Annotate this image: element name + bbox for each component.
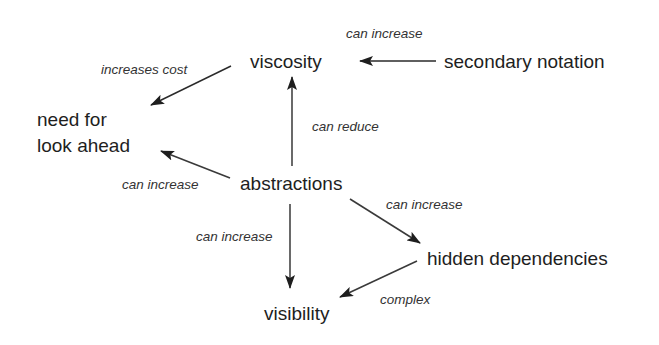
edge-abstractions-to-lookahead <box>161 151 230 178</box>
node-need-for-look-ahead-line1: need for <box>37 109 107 130</box>
node-abstractions: abstractions <box>240 173 342 194</box>
label-abstractions-to-viscosity: can reduce <box>312 119 379 134</box>
node-need-for-look-ahead-line2: look ahead <box>37 135 130 156</box>
label-secondary-to-viscosity: can increase <box>346 26 423 41</box>
label-viscosity-to-lookahead: increases cost <box>101 62 189 77</box>
node-visibility: visibility <box>264 303 330 324</box>
label-abstractions-to-lookahead: can increase <box>122 177 199 192</box>
concept-diagram: viscosity secondary notation need for lo… <box>0 0 659 345</box>
node-viscosity: viscosity <box>250 51 322 72</box>
node-hidden-dependencies: hidden dependencies <box>427 248 608 269</box>
node-secondary-notation: secondary notation <box>444 51 605 72</box>
label-abstractions-to-hidden: can increase <box>386 197 463 212</box>
label-hidden-to-visibility: complex <box>380 292 432 307</box>
label-abstractions-to-visibility: can increase <box>196 229 273 244</box>
